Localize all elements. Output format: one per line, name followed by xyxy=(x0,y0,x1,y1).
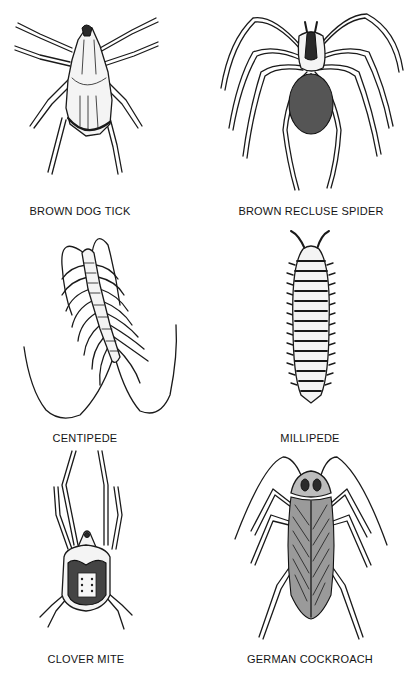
caption-brown-recluse-spider: BROWN RECLUSE SPIDER xyxy=(238,205,383,217)
millipede-illustration xyxy=(203,225,406,425)
caption-centipede: CENTIPEDE xyxy=(53,432,118,444)
caption-millipede: MILLIPEDE xyxy=(280,432,339,444)
caption-brown-dog-tick: BROWN DOG TICK xyxy=(30,205,131,217)
brown-recluse-spider-illustration xyxy=(203,0,406,200)
caption-german-cockroach: GERMAN COCKROACH xyxy=(247,653,373,665)
specimen-german-cockroach: GERMAN COCKROACH xyxy=(203,445,406,691)
brown-dog-tick-illustration xyxy=(0,0,203,200)
centipede-illustration xyxy=(0,225,203,425)
specimen-millipede: MILLIPEDE xyxy=(203,225,406,445)
caption-clover-mite: CLOVER MITE xyxy=(48,653,125,665)
specimen-brown-recluse-spider: BROWN RECLUSE SPIDER xyxy=(203,0,406,225)
german-cockroach-illustration xyxy=(203,445,406,645)
specimen-centipede: CENTIPEDE xyxy=(0,225,203,445)
specimen-brown-dog-tick: BROWN DOG TICK xyxy=(0,0,203,225)
specimen-clover-mite: CLOVER MITE xyxy=(0,445,203,691)
clover-mite-illustration xyxy=(0,445,203,645)
